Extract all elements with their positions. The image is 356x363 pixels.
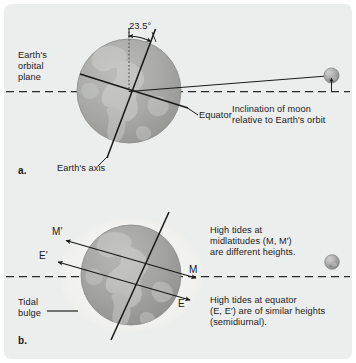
- panel-a-graphics: [6, 28, 350, 166]
- orbital-plane-label-line2: orbital: [18, 61, 44, 72]
- earth-axis-label: Earth's axis: [57, 163, 105, 174]
- point-m-label: M: [189, 265, 197, 276]
- tides-diagram-figure: Earth's orbital plane 23.5° Equator Eart…: [0, 0, 356, 363]
- moon-inclination-label-line1: Inclination of moon: [232, 104, 311, 115]
- moon-sphere-b: [325, 255, 340, 270]
- equatorial-note-line1: High tides at equator: [210, 295, 297, 306]
- panel-a-key: a.: [18, 166, 27, 177]
- equatorial-note-line3: (semidiurnal).: [210, 317, 267, 328]
- point-e-prime-label: E′: [39, 251, 48, 262]
- point-e-label: E: [178, 299, 185, 310]
- equator-leader-line: [186, 107, 198, 115]
- midlatitude-note-line3: are different heights.: [210, 247, 296, 258]
- point-m-prime-label: M′: [52, 227, 62, 238]
- orbital-plane-label-line1: Earth's: [18, 50, 47, 61]
- orbital-plane-label-line3: plane: [18, 72, 41, 83]
- tidal-bulge-label-line1: Tidal: [18, 297, 38, 308]
- panel-b-key: b.: [18, 336, 27, 347]
- midlatitude-note-line1: High tides at: [210, 225, 262, 236]
- axial-tilt-angle-label: 23.5°: [129, 21, 151, 32]
- moon-inclination-label-line2: relative to Earth's orbit: [232, 115, 325, 126]
- midlatitude-note-line2: midlatitudes (M, M′): [210, 236, 292, 247]
- tidal-bulge-label-line2: bulge: [18, 308, 41, 319]
- equator-label: Equator: [199, 110, 232, 121]
- equatorial-note-line2: (E, E′) are of similar heights: [210, 306, 325, 317]
